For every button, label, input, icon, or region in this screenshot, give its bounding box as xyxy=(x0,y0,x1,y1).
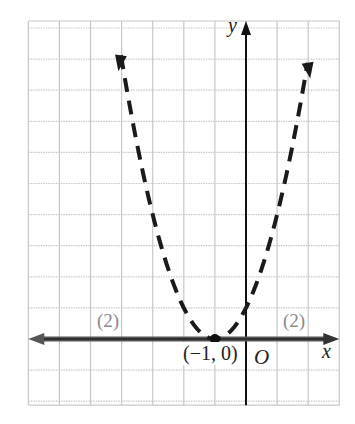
x-axis-label: x xyxy=(322,340,331,363)
graph-canvas xyxy=(0,0,355,424)
parabola-curve xyxy=(115,54,313,339)
vertex-label: (−1, 0) xyxy=(182,342,239,365)
y-axis-label: y xyxy=(228,14,237,37)
multiplicity-label-right: (2) xyxy=(283,310,305,332)
origin-label: O xyxy=(254,345,269,370)
multiplicity-label-left: (2) xyxy=(97,310,119,332)
